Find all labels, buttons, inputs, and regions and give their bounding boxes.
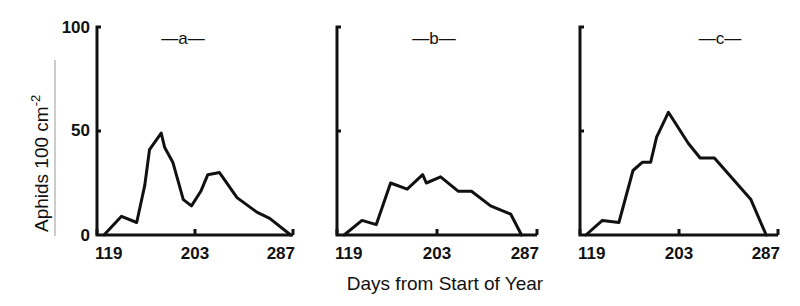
x-tick-287: 287 <box>267 244 295 263</box>
x-tick-119: 119 <box>335 244 362 263</box>
x-axis-title: Days from Start of Year <box>347 273 544 294</box>
series-line-c <box>586 112 766 235</box>
y-axis <box>337 27 537 235</box>
panels: 119203287—a—119203287—b—119203287—c— <box>95 27 780 263</box>
panel-title-c: —c— <box>699 29 742 48</box>
y-tick-100: 100 <box>62 18 90 37</box>
x-tick-203: 203 <box>181 244 209 263</box>
panel-title-a: —a— <box>161 29 204 48</box>
y-tick-50: 50 <box>71 121 90 140</box>
x-tick-203: 203 <box>423 244 451 263</box>
panel-a: 119203287—a— <box>95 27 295 263</box>
x-tick-287: 287 <box>511 244 539 263</box>
x-tick-119: 119 <box>95 244 122 263</box>
y-axis <box>97 27 293 235</box>
y-tick-0: 0 <box>81 226 90 245</box>
x-tick-203: 203 <box>665 244 693 263</box>
series-line-b <box>344 175 521 235</box>
panel-b: 119203287—b— <box>335 27 539 263</box>
chart: Aphids 100 cm-2 100 50 0 119203287—a—119… <box>0 0 800 306</box>
x-tick-119: 119 <box>578 244 605 263</box>
x-tick-287: 287 <box>752 244 780 263</box>
panel-c: 119203287—c— <box>578 27 780 263</box>
series-line-a <box>104 133 291 235</box>
panel-title-b: —b— <box>412 29 455 48</box>
y-axis-title: Aphids 100 cm-2 <box>28 95 52 232</box>
